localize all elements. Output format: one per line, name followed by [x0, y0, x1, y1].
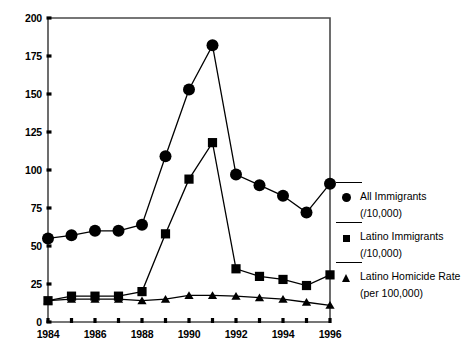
- circle-data-point: [136, 219, 148, 231]
- x-axis-tick: [70, 318, 73, 323]
- x-axis-tick: [305, 318, 308, 323]
- y-axis-tick-label: 125: [8, 126, 42, 138]
- y-axis-tick: [47, 206, 52, 209]
- square-data-point: [325, 270, 334, 279]
- legend-entry-all-immigrants: All Immigrants (/10,000): [336, 182, 475, 222]
- plot-frame: [48, 18, 330, 322]
- legend-rule-icon: [336, 262, 362, 263]
- triangle-marker-icon: [342, 274, 350, 282]
- y-axis-tick: [47, 168, 52, 171]
- x-axis-tick: [234, 318, 237, 323]
- circle-data-point: [254, 179, 266, 191]
- x-axis-tick: [46, 318, 49, 323]
- y-axis-tick: [47, 54, 52, 57]
- legend-label: Latino Immigrants: [360, 230, 443, 242]
- circle-data-point: [301, 207, 313, 219]
- square-data-point: [208, 138, 217, 147]
- square-data-point: [302, 281, 311, 290]
- x-axis-tick: [117, 318, 120, 323]
- legend-rule-icon: [336, 222, 362, 223]
- circle-data-point: [160, 150, 172, 162]
- square-marker-icon: [343, 235, 350, 242]
- legend-entry-latino-immigrants: Latino Immigrants (/10,000): [336, 222, 475, 262]
- square-data-point: [278, 275, 287, 284]
- square-data-point: [255, 272, 264, 281]
- square-data-point: [137, 287, 146, 296]
- y-axis-tick: [47, 92, 52, 95]
- legend-sublabel: (per 100,000): [360, 287, 423, 299]
- chart-figure: 0255075100125150175200 19841986198819901…: [0, 0, 475, 357]
- circle-data-point: [277, 190, 289, 202]
- y-axis-tick-label: 75: [8, 202, 42, 214]
- circle-data-point: [207, 39, 219, 51]
- series-line-square: [48, 143, 330, 301]
- x-axis-tick-label: 1990: [178, 328, 201, 340]
- y-axis-tick: [47, 16, 52, 19]
- x-axis-tick-label: 1996: [319, 328, 342, 340]
- y-axis-tick-label: 200: [8, 12, 42, 24]
- y-axis-tick: [47, 244, 52, 247]
- x-axis-tick-label: 1984: [37, 328, 60, 340]
- legend-sublabel: (/10,000): [360, 247, 402, 259]
- x-axis-tick: [281, 318, 284, 323]
- square-data-point: [161, 229, 170, 238]
- x-axis-tick-label: 1988: [131, 328, 154, 340]
- legend-label: Latino Homicide Rate: [360, 270, 460, 282]
- circle-data-point: [230, 169, 242, 181]
- y-axis-tick-label: 50: [8, 240, 42, 252]
- chart-legend: All Immigrants (/10,000) Latino Immigran…: [336, 182, 475, 302]
- y-axis-tick-label: 175: [8, 50, 42, 62]
- x-axis-tick: [93, 318, 96, 323]
- circle-data-point: [113, 225, 125, 237]
- y-axis-tick-label: 0: [8, 316, 42, 328]
- legend-entry-latino-homicide-rate: Latino Homicide Rate (per 100,000): [336, 262, 475, 302]
- circle-data-point: [89, 225, 101, 237]
- y-axis-tick: [47, 130, 52, 133]
- x-axis-tick: [328, 318, 331, 323]
- circle-data-point: [183, 83, 195, 95]
- y-axis-tick-label: 25: [8, 278, 42, 290]
- x-axis-tick: [140, 318, 143, 323]
- x-axis-tick: [258, 318, 261, 323]
- circle-data-point: [66, 229, 78, 241]
- x-axis-tick-label: 1992: [225, 328, 248, 340]
- x-axis-tick-label: 1986: [84, 328, 107, 340]
- circle-data-point: [42, 232, 54, 244]
- legend-sublabel: (/10,000): [360, 207, 402, 219]
- y-axis-tick: [47, 282, 52, 285]
- square-data-point: [184, 175, 193, 184]
- x-axis-tick: [164, 318, 167, 323]
- legend-rule-icon: [336, 182, 362, 183]
- y-axis-tick-label: 150: [8, 88, 42, 100]
- x-axis-tick-label: 1994: [272, 328, 295, 340]
- chart-plot-area: [0, 0, 475, 357]
- x-axis-tick: [211, 318, 214, 323]
- x-axis-tick: [187, 318, 190, 323]
- y-axis-tick-label: 100: [8, 164, 42, 176]
- circle-data-point: [324, 178, 336, 190]
- circle-marker-icon: [342, 193, 351, 202]
- series-line-circle: [48, 45, 330, 238]
- legend-label: All Immigrants: [360, 190, 427, 202]
- square-data-point: [231, 264, 240, 273]
